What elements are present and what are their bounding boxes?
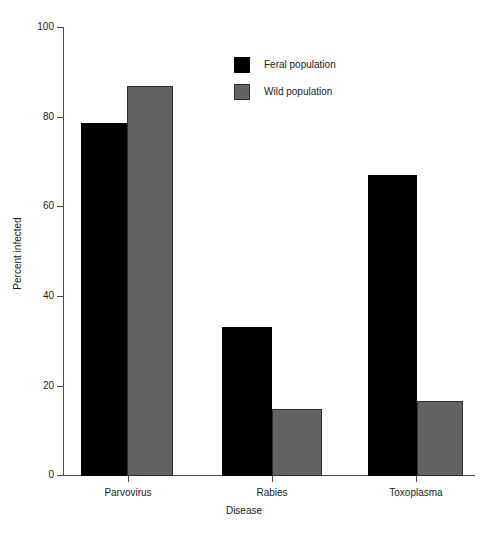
y-tick-label-20: 20 — [14, 381, 54, 391]
plot-area: 100 80 60 40 20 0 Parvovirus Rabies Toxo… — [0, 0, 488, 536]
x-tick-label-rabies: Rabies — [212, 487, 332, 498]
bar-toxoplasma-feral — [368, 175, 417, 476]
x-tick-mark-toxoplasma — [416, 476, 417, 482]
y-tick-label-0: 0 — [14, 470, 54, 480]
bar-rabies-feral — [222, 327, 272, 476]
y-tick-mark-40 — [57, 296, 63, 297]
y-tick-mark-0 — [57, 475, 63, 476]
x-tick-label-parvovirus: Parvovirus — [68, 487, 188, 498]
x-axis-title: Disease — [0, 505, 488, 516]
x-tick-label-toxoplasma: Toxoplasma — [356, 487, 476, 498]
black-square-swatch-icon — [234, 57, 250, 73]
bar-parvovirus-feral — [81, 123, 127, 476]
legend-label-wild: Wild population — [264, 86, 332, 97]
bar-chart-figure: 100 80 60 40 20 0 Parvovirus Rabies Toxo… — [0, 0, 488, 536]
x-tick-mark-parvovirus — [128, 476, 129, 482]
y-tick-mark-100 — [57, 27, 63, 28]
bar-rabies-wild — [272, 409, 322, 476]
y-tick-mark-80 — [57, 117, 63, 118]
gray-square-swatch-icon — [234, 84, 250, 100]
legend-label-feral: Feral population — [264, 59, 336, 70]
y-tick-mark-60 — [57, 206, 63, 207]
y-axis-title: Percent infected — [12, 174, 23, 334]
x-tick-mark-rabies — [272, 476, 273, 482]
bar-parvovirus-wild — [127, 86, 173, 476]
bar-toxoplasma-wild — [417, 401, 463, 476]
y-axis-line — [63, 27, 64, 476]
y-tick-label-80: 80 — [14, 112, 54, 122]
y-tick-label-100: 100 — [14, 22, 54, 32]
y-tick-mark-20 — [57, 386, 63, 387]
